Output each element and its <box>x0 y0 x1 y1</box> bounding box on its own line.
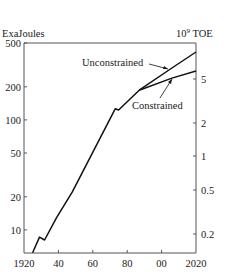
svg-text:200: 200 <box>5 82 21 93</box>
series-layer <box>33 52 196 253</box>
svg-text:50: 50 <box>11 148 22 159</box>
svg-text:500: 500 <box>5 38 21 49</box>
right-axis-title: 109 TOE <box>176 27 213 39</box>
svg-text:60: 60 <box>88 258 99 269</box>
svg-text:80: 80 <box>122 258 133 269</box>
series-unconstrained-line <box>139 52 196 90</box>
plot-frame <box>24 43 196 253</box>
svg-text:2020: 2020 <box>186 258 207 269</box>
svg-text:2: 2 <box>201 118 206 129</box>
svg-text:0.5: 0.5 <box>201 185 214 196</box>
svg-text:100: 100 <box>5 115 21 126</box>
svg-text:40: 40 <box>53 258 64 269</box>
x-tick-labels: 1920 40 60 80 00 2020 <box>14 258 207 269</box>
svg-text:1: 1 <box>201 151 206 162</box>
right-tick-labels: 5 2 1 0.5 0.2 <box>201 74 214 240</box>
unconstrained-label: Unconstrained <box>82 57 144 68</box>
constrained-label: Constrained <box>132 100 183 111</box>
svg-text:5: 5 <box>201 74 206 85</box>
svg-text:10: 10 <box>11 225 22 236</box>
svg-text:00: 00 <box>156 258 167 269</box>
energy-chart: ExaJoules 109 TOE 500 200 100 50 20 10 5… <box>0 0 244 272</box>
unconstrained-arrowhead-icon <box>163 66 168 69</box>
svg-text:20: 20 <box>11 192 22 203</box>
series-historical-line <box>33 90 140 253</box>
svg-text:1920: 1920 <box>14 258 35 269</box>
svg-text:0.2: 0.2 <box>201 229 214 240</box>
series-constrained-line <box>139 71 196 90</box>
left-tick-labels: 500 200 100 50 20 10 <box>5 38 21 236</box>
